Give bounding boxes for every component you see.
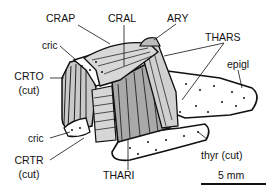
label-cric-bottom: cric xyxy=(28,133,44,144)
label-crtr-name: CRTR xyxy=(12,155,46,166)
label-crap: CRAP xyxy=(46,13,75,24)
label-crtr-cut: (cut) xyxy=(12,169,46,180)
label-thars: THARS xyxy=(205,32,241,43)
label-ary: ARY xyxy=(167,13,188,24)
label-cral: CRAL xyxy=(108,13,136,24)
label-crto: CRTO (cut) xyxy=(12,71,46,96)
label-thari: THARI xyxy=(103,170,135,181)
label-thyr: thyr (cut) xyxy=(201,150,242,161)
label-crto-cut: (cut) xyxy=(12,85,46,96)
label-crto-name: CRTO xyxy=(12,71,46,82)
label-crtr: CRTR (cut) xyxy=(12,155,46,180)
scale-bar-label: 5 mm xyxy=(218,170,244,181)
label-cric-top: cric xyxy=(42,40,58,51)
arytenoid-shape xyxy=(140,38,160,46)
label-epigl: epigl xyxy=(227,59,249,70)
